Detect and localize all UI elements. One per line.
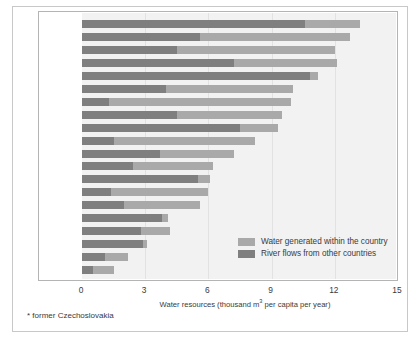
bar-segment-generated-within xyxy=(177,111,282,119)
bar-row: The Netherlands xyxy=(82,188,396,196)
bar-segment-river-flows xyxy=(82,214,162,222)
bar-segment-generated-within xyxy=(133,162,213,170)
bar-row: Switzerland xyxy=(82,137,396,145)
bar-segment-river-flows xyxy=(82,253,105,261)
bar-segment-generated-within xyxy=(111,188,208,196)
bar-row: Romania xyxy=(82,124,396,132)
bar-segment-river-flows xyxy=(82,72,310,80)
bar-row: Belgium xyxy=(82,266,396,274)
bar-segment-river-flows xyxy=(82,85,166,93)
bar-segment-river-flows xyxy=(82,227,141,235)
bar-row: Belarus xyxy=(82,214,396,222)
bar-segment-generated-within xyxy=(114,137,255,145)
bar-segment-river-flows xyxy=(82,162,133,170)
bar-segment-generated-within xyxy=(162,214,168,222)
x-axis-title: Water resources (thousand m3 per capita … xyxy=(13,298,407,309)
bar-row: Portugal xyxy=(82,150,396,158)
bar-segment-generated-within xyxy=(310,72,318,80)
bar-segment-river-flows xyxy=(82,46,177,54)
x-tick-label: 15 xyxy=(392,285,401,295)
bar-segment-river-flows xyxy=(82,98,109,106)
bar-segment-generated-within xyxy=(177,46,335,54)
bar-row: former CSFR* xyxy=(82,175,396,183)
chart-legend: Water generated within the countryRiver … xyxy=(238,237,403,261)
bar-segment-generated-within xyxy=(124,201,200,209)
bar-segment-river-flows xyxy=(82,150,160,158)
x-tick-label: 3 xyxy=(142,285,147,295)
x-axis-tick-labels: 03691215 xyxy=(38,285,398,297)
bar-row: Greece xyxy=(82,201,396,209)
bar-segment-generated-within xyxy=(109,98,290,106)
bar-segment-generated-within xyxy=(305,20,360,28)
bar-segment-river-flows xyxy=(82,266,93,274)
x-tick-label: 9 xyxy=(268,285,273,295)
bar-segment-river-flows xyxy=(82,175,198,183)
bar-row: Austria xyxy=(82,46,396,54)
bar-segment-river-flows xyxy=(82,20,305,28)
bar-segment-generated-within xyxy=(105,253,128,261)
bar-segment-river-flows xyxy=(82,59,234,67)
x-tick-label: 0 xyxy=(79,285,84,295)
bar-segment-river-flows xyxy=(82,201,124,209)
bar-segment-river-flows xyxy=(82,33,200,41)
bar-segment-river-flows xyxy=(82,111,177,119)
bar-segment-generated-within xyxy=(143,240,147,248)
legend-swatch xyxy=(238,238,255,246)
bar-row: Luxembourg xyxy=(82,20,396,28)
bar-segment-river-flows xyxy=(82,137,114,145)
bar-segment-generated-within xyxy=(200,33,350,41)
bar-segment-river-flows xyxy=(82,240,143,248)
bar-segment-generated-within xyxy=(240,124,278,132)
bar-segment-generated-within xyxy=(198,175,211,183)
x-axis-title-pre: Water resources (thousand m xyxy=(160,300,260,309)
bar-segment-river-flows xyxy=(82,124,240,132)
bar-row: Hungary xyxy=(82,72,396,80)
bar-row: Croatia xyxy=(82,85,396,93)
bar-row: Ukraine xyxy=(82,227,396,235)
bar-row: Latvia xyxy=(82,59,396,67)
bar-segment-generated-within xyxy=(93,266,114,274)
x-axis-title-post: per capita per year) xyxy=(262,300,330,309)
legend-label: Water generated within the country xyxy=(261,237,388,246)
legend-swatch xyxy=(238,250,255,258)
footnote: * former Czechoslovakia xyxy=(27,311,114,320)
bar-segment-generated-within xyxy=(141,227,170,235)
legend-item: River flows from other countries xyxy=(238,249,403,258)
legend-label: River flows from other countries xyxy=(261,249,376,258)
chart-figure: LuxembourgAlbaniaAustriaLatviaHungaryCro… xyxy=(12,6,408,332)
bar-row: Estonia xyxy=(82,111,396,119)
legend-item: Water generated within the country xyxy=(238,237,403,246)
x-tick-label: 12 xyxy=(329,285,338,295)
x-tick-label: 6 xyxy=(205,285,210,295)
bar-row: Albania xyxy=(82,33,396,41)
bar-segment-river-flows xyxy=(82,188,111,196)
bar-row: Slovenia xyxy=(82,98,396,106)
bar-segment-generated-within xyxy=(166,85,292,93)
bar-segment-generated-within xyxy=(160,150,234,158)
bar-segment-generated-within xyxy=(234,59,337,67)
bar-row: Lithuania xyxy=(82,162,396,170)
